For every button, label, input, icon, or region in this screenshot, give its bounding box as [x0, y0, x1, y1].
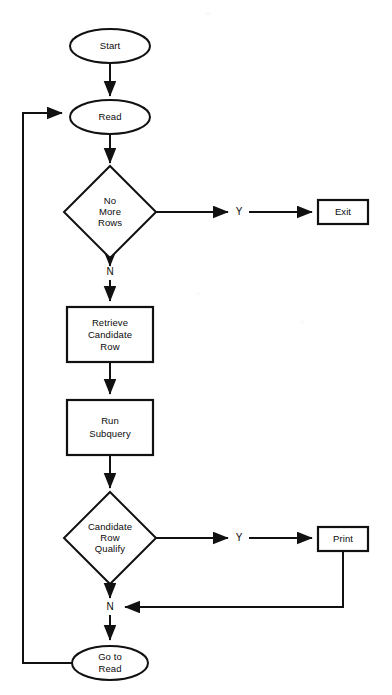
candidate-row-qualify-label-line3: Qualify [95, 543, 125, 554]
node-run-subquery[interactable]: Run Subquery [67, 400, 153, 455]
branch-label-candidate-qualify-no: N [106, 601, 113, 612]
node-go-to-read[interactable]: Go to Read [72, 646, 148, 680]
retrieve-candidate-row-label-line3: Row [100, 341, 119, 352]
no-more-rows-label-line1: No [104, 195, 116, 206]
node-exit[interactable]: Exit [318, 200, 368, 224]
branch-label-no-more-rows-no: N [106, 266, 113, 277]
start-label: Start [100, 40, 121, 51]
branch-label-no-more-rows-yes: Y [236, 206, 243, 217]
read-label: Read [98, 111, 121, 122]
node-print[interactable]: Print [318, 527, 368, 551]
node-read[interactable]: Read [70, 100, 150, 134]
retrieve-candidate-row-label-line1: Retrieve [92, 317, 128, 328]
print-label: Print [333, 533, 353, 544]
go-to-read-label-line2: Read [98, 663, 121, 674]
connector-loop-back-to-read [23, 113, 72, 663]
flowchart-page: Start Read No More Rows Y Exit N Retriev… [0, 0, 392, 695]
flowchart-canvas: Start Read No More Rows Y Exit N Retriev… [0, 0, 392, 695]
branch-label-candidate-qualify-yes: Y [236, 532, 243, 543]
node-no-more-rows[interactable]: No More Rows [64, 166, 156, 258]
exit-label: Exit [335, 206, 351, 217]
no-more-rows-label-line3: Rows [98, 217, 122, 228]
connector-print-return-to-main [125, 551, 343, 607]
node-retrieve-candidate-row[interactable]: Retrieve Candidate Row [67, 307, 153, 362]
no-more-rows-label-line2: More [99, 206, 121, 217]
run-subquery-label-line1: Run [101, 415, 119, 426]
candidate-row-qualify-label-line2: Row [100, 532, 119, 543]
candidate-row-qualify-label-line1: Candidate [88, 521, 132, 532]
node-start[interactable]: Start [70, 29, 150, 63]
node-candidate-row-qualify[interactable]: Candidate Row Qualify [64, 492, 156, 584]
retrieve-candidate-row-label-line2: Candidate [88, 329, 132, 340]
run-subquery-label-line2: Subquery [89, 428, 131, 439]
go-to-read-label-line1: Go to [98, 651, 122, 662]
